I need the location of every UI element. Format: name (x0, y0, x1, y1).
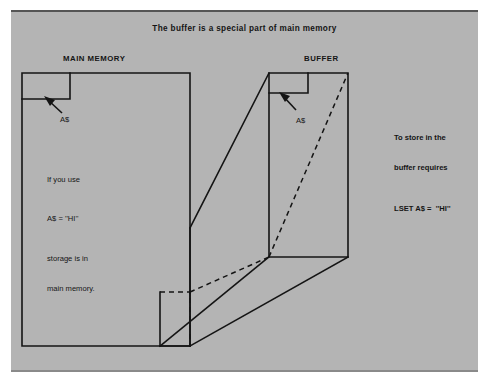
buffer-as-cell (269, 73, 308, 93)
diagram-title: The buffer is a special part of main mem… (0, 24, 489, 35)
buffer-memory-diagram: The buffer is a special part of main mem… (0, 0, 489, 381)
buffer-note-line-3: LSET A$ = ''HI'' (394, 204, 451, 214)
buffer-as-label: A$ (296, 116, 305, 126)
projected-box-front (160, 292, 190, 346)
main-memory-note-line-2: A$ = ''HI'' (47, 214, 95, 224)
main-memory-label: MAIN MEMORY (63, 54, 125, 64)
main-memory-note-line-4: main memory. (47, 284, 95, 294)
buffer-note: To store in the buffer requires LSET A$ … (394, 113, 451, 234)
main-memory-as-label: A$ (60, 115, 69, 125)
main-memory-note-line-3: storage is in (47, 254, 95, 264)
buffer-arrow (279, 92, 296, 110)
main-memory-note: If you use A$ = ''HI'' storage is in mai… (47, 155, 95, 314)
buffer-note-line-2: buffer requires (394, 163, 451, 173)
main-memory-as-cell (22, 73, 70, 99)
perspective-top-left-edge (190, 73, 269, 228)
projection-dashed-diagonal (190, 257, 269, 292)
projected-box-hidden-edges (160, 292, 190, 346)
buffer-note-line-1: To store in the (394, 133, 451, 143)
buffer-label: BUFFER (304, 54, 339, 64)
main-memory-note-line-1: If you use (47, 175, 95, 185)
buffer-dashed-diagonal (269, 73, 348, 257)
